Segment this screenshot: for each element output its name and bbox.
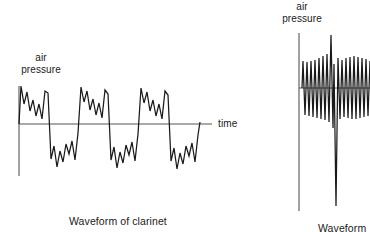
right-y-axis-label: air pressure xyxy=(269,1,335,25)
left-x-axis-label: time xyxy=(218,118,237,130)
right-panel-group xyxy=(299,33,370,211)
right-panel-caption: Waveform xyxy=(318,222,366,232)
waveform-figure: air pressure time Waveform of clarinet a… xyxy=(0,0,370,232)
left-y-axis-label: air pressure xyxy=(8,52,74,76)
right-waveform-trace xyxy=(302,35,370,206)
left-panel-group xyxy=(19,86,212,176)
left-waveform-trace xyxy=(19,86,200,169)
left-panel-caption: Waveform of clarinet xyxy=(69,215,167,227)
waveform-plot-svg xyxy=(0,0,370,232)
